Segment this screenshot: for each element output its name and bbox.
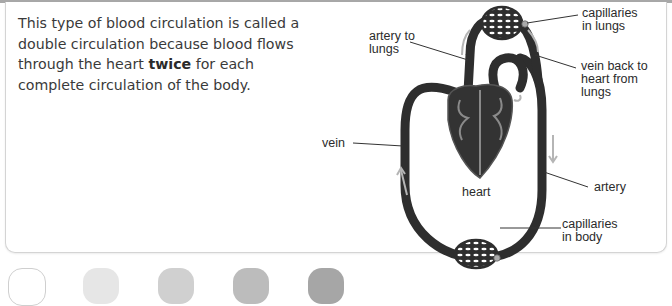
heart-shape	[448, 85, 512, 178]
label-capillaries-in-body: capillaries in body	[562, 218, 618, 244]
label-vein-back-to-heart: vein back to heart from lungs	[581, 60, 648, 99]
label-artery: artery	[594, 181, 626, 194]
label-capillaries-in-lungs: capillaries in lungs	[582, 7, 638, 33]
shape-1	[8, 268, 46, 306]
leader-artery-to-lungs	[410, 42, 468, 60]
lung-capillaries	[482, 7, 528, 39]
shape-2	[83, 268, 119, 304]
body-capillaries	[455, 240, 500, 268]
leader-capillaries-lungs	[527, 15, 578, 23]
label-artery-to-lungs: artery to lungs	[369, 30, 415, 56]
lung-return-loop	[493, 58, 523, 88]
leader-vein-back	[535, 55, 576, 68]
shape-4	[233, 268, 269, 304]
shape-3	[158, 268, 194, 304]
shape-5	[308, 268, 344, 304]
leader-vein	[353, 143, 403, 146]
bottom-shape-row	[0, 268, 672, 298]
label-vein: vein	[322, 137, 345, 150]
arrow-return	[514, 95, 521, 101]
leader-artery	[544, 172, 588, 187]
label-heart: heart	[462, 186, 491, 199]
